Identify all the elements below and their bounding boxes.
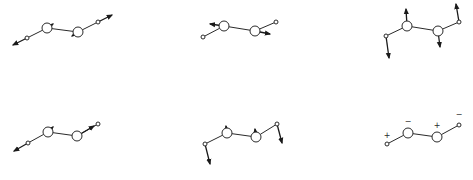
bond [229,27,250,30]
displacement-arrow-icon [205,144,210,164]
displacement-arrow-icon [386,36,389,58]
displacement-arrow-icon [456,4,459,22]
bond [52,29,73,32]
bond [388,28,403,35]
bond [260,23,275,29]
central-atom [250,26,260,36]
bond [389,135,404,143]
central-atom [251,132,261,142]
mode-4 [14,122,100,151]
terminal-atom [274,20,278,24]
central-atom [433,26,443,36]
terminal-atom [201,35,205,39]
out-of-plane-sign: − [405,117,412,126]
displacement-arrow-icon [277,124,282,143]
bond [29,30,43,37]
terminal-atom [26,141,30,145]
central-atom [73,27,83,37]
central-atom [403,128,413,138]
bond [30,134,44,142]
bond [413,134,432,137]
mode-2 [201,20,278,39]
terminal-atom [385,142,389,146]
vibrational-modes-diagram: +−+− [0,0,473,180]
terminal-atom [384,34,388,38]
bond [207,135,223,143]
central-atom [43,127,53,137]
mode-3 [384,4,461,58]
mode-1 [13,15,112,45]
central-atom [72,131,82,141]
bond [260,125,275,134]
bond [443,23,458,29]
terminal-atom [457,123,461,127]
terminal-atom [457,20,461,24]
central-atom [222,128,232,138]
terminal-atom [275,122,279,126]
central-atom [42,23,52,33]
mode-5 [203,122,282,164]
bond [53,133,72,136]
bond [82,23,96,30]
mode-6: +−+− [384,110,463,146]
bond [232,134,251,137]
central-atom [402,21,412,31]
bond [205,28,220,36]
bond [441,126,457,135]
terminal-atom [203,142,207,146]
bond [412,27,433,30]
out-of-plane-sign: − [456,110,463,119]
out-of-plane-sign: + [434,121,441,130]
terminal-atom [25,36,29,40]
out-of-plane-sign: + [384,131,391,140]
terminal-atom [96,20,100,24]
terminal-atom [96,122,100,126]
central-atom [432,132,442,142]
central-atom [219,21,229,31]
